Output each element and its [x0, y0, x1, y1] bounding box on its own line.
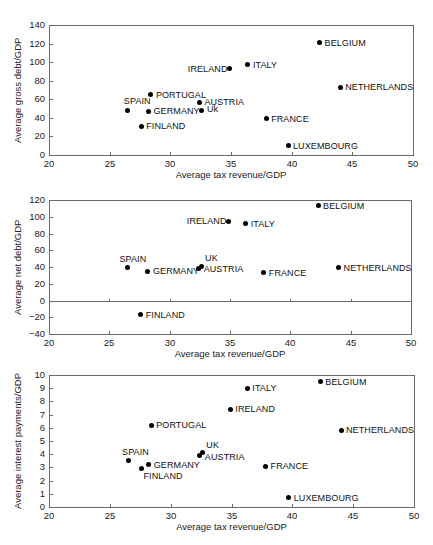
x-tick-label: 30: [160, 338, 180, 348]
point-label: UK: [206, 440, 219, 450]
point-label: NETHERLANDS: [345, 82, 413, 92]
x-axis-label: Average tax revenue/GDP: [130, 348, 330, 359]
x-tick-label: 40: [282, 511, 302, 521]
x-tick-mark: [352, 152, 353, 155]
y-tick-mark: [50, 44, 53, 45]
y-tick-mark: [50, 467, 53, 468]
y-tick-label: 9: [23, 383, 45, 393]
point-label: GERMANY: [154, 460, 200, 470]
point-label: IRELAND: [187, 216, 227, 226]
point-label: GERMANY: [153, 266, 199, 276]
x-tick-label: 35: [220, 338, 240, 348]
point-label: ITALY: [253, 60, 277, 70]
x-tick-label: 30: [160, 159, 180, 169]
point-label: LUXEMBOURG: [294, 493, 359, 503]
y-tick-label: 7: [23, 410, 45, 420]
y-axis-label: Average net debt/GDP: [12, 219, 23, 314]
x-tick-mark: [110, 152, 111, 155]
point-label: PORTUGAL: [156, 90, 206, 100]
x-tick-label: 45: [342, 159, 362, 169]
y-tick-label: 8: [23, 396, 45, 406]
point-label: FRANCE: [271, 114, 309, 124]
x-tick-label: 25: [99, 338, 119, 348]
y-tick-mark: [50, 428, 53, 429]
y-tick-mark: [50, 401, 53, 402]
y-tick-mark: [50, 481, 53, 482]
y-tick-mark: [50, 62, 53, 63]
point-label: FINLAND: [146, 121, 185, 131]
x-tick-mark: [230, 299, 231, 302]
y-tick-mark: [50, 99, 53, 100]
y-tick-mark: [50, 234, 53, 235]
y-tick-mark: [50, 81, 53, 82]
y-tick-label: 1: [23, 489, 45, 499]
point-label: NETHERLANDS: [344, 263, 412, 273]
y-axis-label: Average interest payments/GDP: [12, 373, 23, 509]
point-label: FINLAND: [146, 310, 185, 320]
x-axis-label: Average tax revenue/GDP: [132, 521, 332, 532]
y-tick-label: 2: [23, 476, 45, 486]
data-point: [139, 124, 144, 129]
data-point: [338, 85, 343, 90]
x-axis-label: Average tax revenue/GDP: [131, 169, 331, 180]
point-label: FINLAND: [143, 471, 182, 481]
y-tick-mark: [50, 250, 53, 251]
x-tick-label: 40: [280, 338, 300, 348]
data-point: [316, 203, 321, 208]
point-label: AUSTRIA: [204, 264, 244, 274]
x-tick-label: 50: [401, 338, 421, 348]
y-tick-mark: [50, 415, 53, 416]
data-point: [286, 143, 291, 148]
y-tick-label: 80: [23, 229, 45, 239]
y-tick-label: 140: [23, 20, 45, 30]
y-tick-mark: [50, 217, 53, 218]
x-tick-mark: [171, 504, 172, 507]
y-tick-label: 100: [23, 57, 45, 67]
y-tick-label: 120: [23, 195, 45, 205]
y-tick-mark: [50, 267, 53, 268]
point-label: PORTUGAL: [156, 420, 206, 430]
y-tick-label: 3: [23, 462, 45, 472]
y-tick-mark: [50, 317, 53, 318]
y-tick-mark: [50, 136, 53, 137]
data-point: [197, 100, 202, 105]
y-tick-label: 100: [23, 212, 45, 222]
x-tick-mark: [170, 299, 171, 302]
y-tick-label: 5: [23, 436, 45, 446]
y-axis-label: Average gross debt/GDP: [12, 37, 23, 142]
x-tick-label: 45: [343, 511, 363, 521]
point-label: FRANCE: [269, 268, 307, 278]
data-point: [263, 464, 268, 469]
x-tick-mark: [232, 504, 233, 507]
x-tick-label: 25: [100, 159, 120, 169]
data-point: [264, 116, 269, 121]
point-label: FRANCE: [271, 461, 309, 471]
point-label: ITALY: [252, 383, 276, 393]
point-label: Uk: [207, 104, 218, 114]
x-tick-label: 35: [221, 159, 241, 169]
y-tick-label: −20: [23, 312, 45, 322]
x-tick-mark: [230, 331, 231, 334]
x-tick-label: 50: [404, 511, 424, 521]
x-tick-mark: [170, 331, 171, 334]
x-tick-mark: [351, 299, 352, 302]
x-tick-mark: [290, 299, 291, 302]
x-tick-mark: [292, 504, 293, 507]
x-tick-mark: [170, 152, 171, 155]
x-tick-label: 50: [403, 159, 423, 169]
data-point: [126, 458, 131, 463]
x-tick-mark: [353, 504, 354, 507]
y-tick-label: 10: [23, 370, 45, 380]
y-tick-mark: [50, 284, 53, 285]
x-tick-mark: [109, 299, 110, 302]
data-point: [339, 428, 344, 433]
point-label: BELGIUM: [325, 38, 366, 48]
y-tick-label: 60: [23, 94, 45, 104]
y-tick-label: 60: [23, 245, 45, 255]
x-tick-label: 20: [39, 338, 59, 348]
y-tick-mark: [50, 454, 53, 455]
point-label: LUXEMBOURG: [293, 141, 358, 151]
y-tick-label: 40: [23, 113, 45, 123]
point-label: UK: [205, 253, 218, 263]
data-point: [149, 423, 154, 428]
